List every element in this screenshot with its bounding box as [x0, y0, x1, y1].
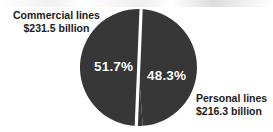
slice-percent-personal: 48.3% — [147, 68, 186, 83]
slice-percent-commercial: 51.7% — [94, 59, 133, 74]
callout-commercial: Commercial lines $231.5 billion — [13, 9, 100, 34]
pie-chart-figure: 51.7% 48.3% Commercial lines $231.5 bill… — [0, 0, 273, 132]
callout-personal: Personal lines $216.3 billion — [196, 92, 267, 117]
callout-personal-name: Personal lines — [196, 92, 267, 104]
callout-commercial-name: Commercial lines — [13, 9, 100, 21]
scan-artifact-band — [0, 0, 273, 7]
callout-personal-value: $216.3 billion — [196, 105, 267, 118]
callout-commercial-value: $231.5 billion — [13, 22, 100, 35]
